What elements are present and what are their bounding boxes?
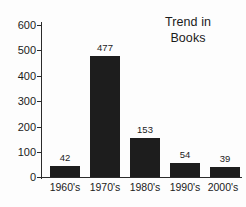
y-tick-400 — [37, 76, 41, 77]
y-tick-label-400: 400 — [2, 71, 36, 82]
bar-1970s[interactable] — [90, 56, 120, 177]
x-axis-line — [41, 177, 242, 178]
y-tick-label-300: 300 — [2, 96, 36, 107]
bar-value-1980s: 153 — [122, 125, 168, 135]
y-tick-label-500: 500 — [2, 45, 36, 56]
plot-area: 42 477 153 54 39 — [42, 25, 242, 177]
y-tick-100 — [37, 152, 41, 153]
bar-2000s[interactable] — [210, 167, 240, 177]
y-tick-300 — [37, 101, 41, 102]
x-tick-label-2000s: 2000's — [201, 181, 245, 193]
y-tick-label-200: 200 — [2, 122, 36, 133]
bar-chart: Trend in Books 600 500 400 300 200 100 0… — [0, 0, 246, 207]
y-tick-600 — [37, 25, 41, 26]
x-tick-label-1970s: 1970's — [83, 181, 127, 193]
bar-value-2000s: 39 — [202, 154, 246, 164]
bar-1990s[interactable] — [170, 163, 200, 177]
y-tick-500 — [37, 50, 41, 51]
y-tick-200 — [37, 127, 41, 128]
bar-value-1960s: 42 — [42, 153, 88, 163]
y-tick-label-0: 0 — [2, 172, 36, 183]
x-tick-label-1960s: 1960's — [43, 181, 87, 193]
y-tick-0 — [37, 177, 41, 178]
bar-value-1970s: 477 — [82, 43, 128, 53]
bar-1960s[interactable] — [50, 166, 80, 177]
x-tick-label-1980s: 1980's — [123, 181, 167, 193]
y-tick-label-100: 100 — [2, 147, 36, 158]
bar-1980s[interactable] — [130, 138, 160, 177]
y-tick-label-600: 600 — [2, 20, 36, 31]
